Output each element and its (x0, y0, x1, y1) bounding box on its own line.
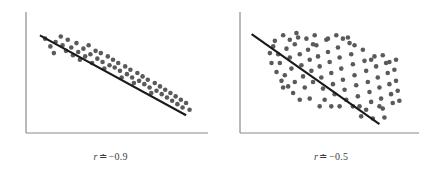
scatter-point (352, 73, 357, 78)
scatter-point (116, 61, 121, 66)
scatter-point (341, 77, 346, 82)
scatter-point (76, 50, 81, 55)
scatter-point (291, 91, 296, 96)
scatter-point (269, 61, 274, 66)
scatter-point (100, 60, 105, 65)
scatter-point (337, 55, 342, 60)
scatter-point (93, 49, 98, 54)
scatter-point (105, 54, 110, 59)
scatter-point (81, 46, 86, 51)
scatter-point (297, 52, 302, 57)
scatter-point (377, 85, 382, 90)
scatter-point (107, 63, 112, 68)
scatter-point (389, 92, 394, 97)
scatter-point (140, 74, 145, 79)
scatter-point (52, 51, 57, 56)
scatter-point (279, 79, 284, 84)
caption-right-value: −0.5 (329, 151, 348, 162)
scatter-point (292, 80, 297, 85)
scatter-point (341, 36, 346, 41)
scatter-point (128, 67, 133, 72)
trend-line (40, 35, 186, 115)
scatter-point (311, 80, 316, 85)
scatter-point (289, 66, 294, 71)
scatter-point (316, 54, 321, 59)
scatter-point (286, 84, 291, 89)
scatter-point (278, 61, 283, 66)
scatter-point (130, 75, 135, 80)
scatterplot-pair-figure: r≐−0.9 r≐−0.5 (0, 0, 441, 173)
scatter-point (152, 81, 157, 86)
scatter-point (347, 41, 352, 46)
scatter-point (321, 86, 326, 91)
scatter-point (154, 89, 159, 94)
scatter-point (379, 96, 384, 101)
scatter-point (312, 33, 317, 38)
scatter-point (187, 107, 192, 112)
scatter-point (69, 45, 74, 50)
scatter-point (274, 70, 279, 75)
scatter-point (304, 36, 309, 41)
scatter-point (372, 54, 377, 59)
scatter-point (375, 75, 380, 80)
scatter-point (170, 99, 175, 104)
scatter-point (331, 82, 336, 87)
scatter-point (297, 97, 302, 102)
scatter-point (292, 42, 297, 47)
scatter-point (392, 67, 397, 72)
caption-right: r≐−0.5 (221, 151, 441, 162)
scatter-point (307, 57, 312, 62)
scatter-point (65, 37, 70, 42)
scatter-point (339, 66, 344, 71)
scatter-point (362, 59, 367, 64)
scatter-point (112, 65, 117, 70)
scatter-point (366, 80, 371, 85)
scatter-point (288, 37, 293, 42)
scatter-point (385, 71, 390, 76)
scatter-point (281, 33, 286, 38)
scatter-point (394, 79, 399, 84)
scatter-point (74, 41, 79, 46)
scatter-point (319, 75, 324, 80)
scatter-point (165, 95, 170, 100)
scatter-point (390, 101, 395, 106)
scatter-point (380, 53, 385, 58)
scatter-point (168, 91, 173, 96)
scatter-point (361, 47, 366, 52)
scatter-point (180, 105, 185, 110)
scatter-point (125, 72, 130, 77)
scatter-point (351, 62, 356, 67)
scatter-point (142, 82, 147, 87)
scatter-point (349, 52, 354, 57)
scatter-point (364, 69, 369, 74)
scatter-point (326, 50, 331, 55)
scatter-point (352, 43, 357, 48)
scatter-point (309, 69, 314, 74)
scatter-point (334, 33, 339, 38)
scatter-point (283, 73, 288, 78)
scatter-point (359, 114, 364, 119)
scatter-point (163, 87, 168, 92)
scatter-point (296, 35, 301, 40)
scatter-point (284, 46, 289, 51)
panel-left (0, 0, 221, 152)
scatter-point (395, 89, 400, 94)
scatter-point (311, 42, 316, 47)
scatter-point (159, 92, 164, 97)
scatter-point (369, 100, 374, 105)
scatter-point (329, 104, 334, 109)
scatter-point (59, 34, 64, 39)
scatter-point (394, 57, 399, 62)
scatter-point (158, 84, 163, 89)
scatter-point (326, 36, 331, 41)
scatter-point (281, 85, 286, 90)
scatter-point (336, 45, 341, 50)
caption-left: r≐−0.9 (0, 151, 221, 162)
caption-left-value: −0.9 (109, 151, 128, 162)
scatter-points (43, 34, 192, 112)
scatter-point (329, 71, 334, 76)
scatter-point (268, 51, 273, 56)
scatter-point (302, 85, 307, 90)
scatter-point (382, 115, 387, 120)
scatter-point (111, 57, 116, 62)
